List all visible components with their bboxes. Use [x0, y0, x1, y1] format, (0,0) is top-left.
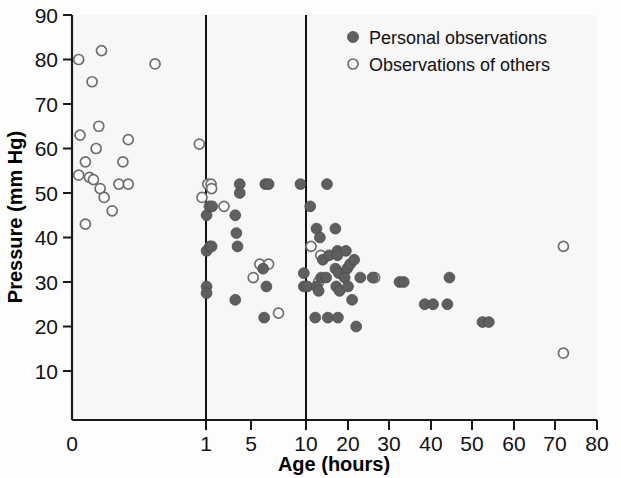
data-point [207, 201, 218, 212]
data-point [298, 268, 309, 279]
data-point [107, 206, 117, 216]
data-point [207, 184, 217, 194]
data-point [80, 219, 90, 229]
data-point [234, 188, 245, 199]
data-point [351, 321, 362, 332]
y-axis-title: Pressure (mm Hg) [4, 131, 26, 303]
data-point [206, 241, 217, 252]
data-point [330, 223, 341, 234]
x-tick-label-10: 10 [294, 432, 317, 455]
y-tick-label-60: 60 [35, 137, 58, 160]
data-point [341, 245, 352, 256]
data-point [367, 272, 378, 283]
data-point [274, 308, 284, 318]
data-point [123, 179, 133, 189]
data-point [444, 272, 455, 283]
data-point [150, 59, 160, 69]
y-axis-ticks [63, 15, 72, 371]
legend-label-observations-of-others: Observations of others [369, 55, 550, 75]
y-tick-label-80: 80 [35, 48, 58, 71]
data-point [322, 179, 333, 190]
data-point [197, 192, 207, 202]
x-tick-label-5: 5 [245, 432, 257, 455]
data-point [230, 294, 241, 305]
data-point [74, 170, 84, 180]
y-tick-label-40: 40 [35, 226, 58, 249]
x-axis-tick-labels: 0151020304050607080 [66, 432, 609, 455]
data-point [347, 294, 358, 305]
data-point [333, 312, 344, 323]
x-axis-title: Age (hours) [278, 453, 390, 475]
data-point [558, 348, 568, 358]
data-point [261, 281, 272, 292]
legend-marker-open-circle-icon [348, 59, 358, 69]
data-point [88, 175, 98, 185]
data-point [74, 55, 84, 65]
data-point [263, 179, 274, 190]
data-point [322, 312, 333, 323]
data-point [314, 232, 325, 243]
x-tick-label-50: 50 [460, 432, 483, 455]
data-point [232, 241, 243, 252]
data-point [201, 288, 212, 299]
data-point [398, 277, 409, 288]
y-tick-label-90: 90 [35, 4, 58, 27]
data-point [313, 286, 324, 297]
data-point [248, 273, 258, 283]
data-point [114, 179, 124, 189]
data-point [295, 179, 306, 190]
data-point [80, 157, 90, 167]
data-point [219, 201, 229, 211]
y-tick-label-70: 70 [35, 93, 58, 116]
x-tick-label-60: 60 [502, 432, 525, 455]
plot-background [72, 15, 597, 420]
data-point [230, 210, 241, 221]
data-point [118, 157, 128, 167]
x-axis-ticks [206, 420, 597, 430]
y-tick-label-10: 10 [35, 360, 58, 383]
x-tick-label-30: 30 [377, 432, 400, 455]
x-tick-label-80: 80 [585, 432, 608, 455]
data-point [194, 139, 204, 149]
data-point [355, 272, 366, 283]
data-point [321, 272, 332, 283]
data-point [442, 299, 453, 310]
x-tick-label-20: 20 [336, 432, 359, 455]
data-point [91, 144, 101, 154]
data-point [75, 130, 85, 140]
data-point [259, 312, 270, 323]
chart-canvas: 102030405060708090 0151020304050607080 P… [0, 0, 621, 478]
data-point [87, 77, 97, 87]
y-tick-label-50: 50 [35, 182, 58, 205]
data-point [428, 299, 439, 310]
data-point [310, 312, 321, 323]
x-tick-label-1: 1 [200, 432, 212, 455]
data-point [305, 201, 316, 212]
data-point [558, 241, 568, 251]
data-point [483, 317, 494, 328]
data-point [123, 135, 133, 145]
x-tick-label-0: 0 [66, 432, 78, 455]
data-point [343, 281, 354, 292]
data-point [349, 254, 360, 265]
y-axis-tick-labels: 102030405060708090 [35, 4, 58, 383]
legend-label-personal-observations: Personal observations [369, 28, 547, 48]
data-point [306, 241, 316, 251]
data-point [258, 263, 269, 274]
data-point [96, 46, 106, 56]
y-tick-label-30: 30 [35, 271, 58, 294]
data-point [231, 228, 242, 239]
data-point [94, 121, 104, 131]
data-point [99, 192, 109, 202]
legend-marker-filled-circle-icon [348, 32, 359, 43]
y-tick-label-20: 20 [35, 315, 58, 338]
x-tick-label-40: 40 [419, 432, 442, 455]
scatter-plot-figure: 102030405060708090 0151020304050607080 P… [0, 0, 621, 478]
x-tick-label-70: 70 [543, 432, 566, 455]
